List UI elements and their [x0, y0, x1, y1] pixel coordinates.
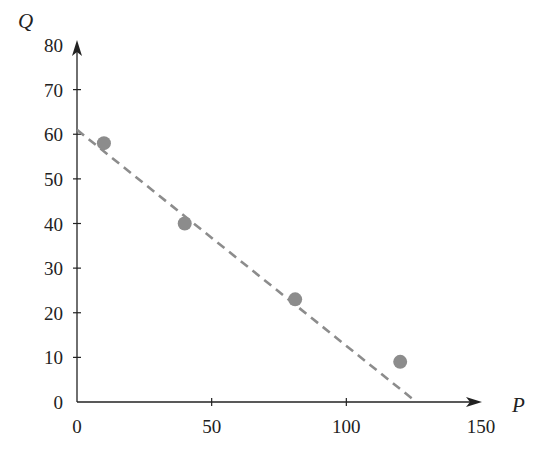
y-tick-label: 40 [44, 214, 63, 235]
x-tick-label: 0 [72, 416, 82, 437]
y-tick-label: 50 [44, 169, 63, 190]
data-point [393, 355, 407, 369]
y-axis-title: Q [18, 9, 33, 33]
y-tick-label: 0 [54, 392, 64, 413]
data-points [97, 136, 407, 369]
dashed-trend-line [77, 130, 416, 402]
x-tick-label: 100 [332, 416, 361, 437]
data-point [288, 292, 302, 306]
fit-line [77, 130, 416, 402]
x-tick-label: 50 [202, 416, 221, 437]
data-point [97, 136, 111, 150]
y-tick-label: 10 [44, 347, 63, 368]
y-tick-label: 20 [44, 303, 63, 324]
x-tick-label: 150 [467, 416, 496, 437]
y-tick-label: 70 [44, 80, 63, 101]
scatter-chart: 05010015001020304050607080 Q P [0, 0, 544, 457]
x-axis-title: P [511, 393, 525, 417]
axes: 05010015001020304050607080 [44, 35, 495, 437]
data-point [178, 217, 192, 231]
y-tick-label: 30 [44, 258, 63, 279]
y-tick-label: 60 [44, 124, 63, 145]
y-tick-label: 80 [44, 35, 63, 56]
